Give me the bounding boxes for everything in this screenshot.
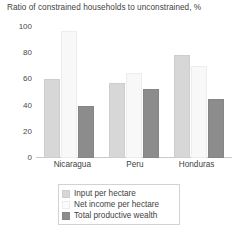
bar-total-productive-wealth bbox=[208, 99, 224, 158]
y-axis: 100 80 60 40 20 0 bbox=[0, 27, 32, 158]
y-tick-label: 40 bbox=[0, 102, 32, 110]
chart-title: Ratio of constrained households to uncon… bbox=[7, 3, 235, 13]
bar-input-per-hectare bbox=[174, 55, 190, 158]
bar-input-per-hectare bbox=[44, 79, 60, 158]
y-tick-label: 0 bbox=[0, 154, 32, 162]
y-tick-label: 60 bbox=[0, 75, 32, 83]
bar-net-income-per-hectare bbox=[126, 73, 142, 158]
y-tick-label: 20 bbox=[0, 128, 32, 136]
bar-group-nicaragua bbox=[44, 27, 94, 158]
x-axis-labels: Nicaragua Peru Honduras bbox=[36, 160, 232, 170]
legend-swatch-icon bbox=[62, 190, 70, 198]
bar-input-per-hectare bbox=[109, 83, 125, 158]
bar-total-productive-wealth bbox=[78, 106, 94, 158]
x-tick-label-honduras: Honduras bbox=[179, 160, 215, 170]
bar-group-peru bbox=[109, 27, 159, 158]
bar-groups bbox=[36, 27, 232, 158]
legend-item-net-income-per-hectare: Net income per hectare bbox=[62, 199, 175, 210]
legend-label: Input per hectare bbox=[74, 189, 136, 199]
legend-item-input-per-hectare: Input per hectare bbox=[62, 188, 175, 199]
bar-group-honduras bbox=[174, 27, 224, 158]
legend-label: Net income per hectare bbox=[74, 200, 159, 210]
legend-swatch-icon bbox=[62, 201, 70, 209]
legend-item-total-productive-wealth: Total productive wealth bbox=[62, 210, 175, 221]
x-tick-label-peru: Peru bbox=[126, 160, 143, 170]
y-tick-label: 100 bbox=[0, 23, 32, 31]
bar-total-productive-wealth bbox=[143, 89, 159, 158]
bar-net-income-per-hectare bbox=[61, 31, 77, 158]
legend-swatch-icon bbox=[62, 212, 70, 220]
bar-net-income-per-hectare bbox=[191, 66, 207, 158]
bar-chart: Ratio of constrained households to uncon… bbox=[0, 0, 238, 231]
legend: Input per hectare Net income per hectare… bbox=[58, 184, 180, 225]
y-tick-label: 80 bbox=[0, 49, 32, 57]
x-tick-label-nicaragua: Nicaragua bbox=[54, 160, 91, 170]
legend-label: Total productive wealth bbox=[74, 211, 157, 221]
